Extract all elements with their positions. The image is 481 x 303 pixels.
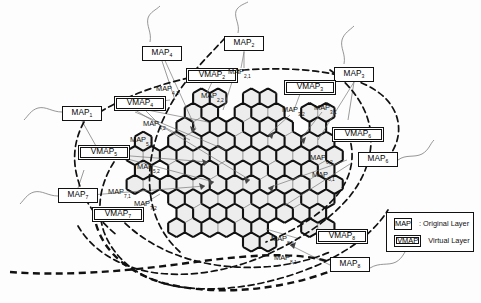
node-map8-subscript: 8 (358, 263, 361, 269)
sublabel-m31: MAP3,1 (314, 104, 337, 114)
node-vmap6-inner-frame: VMAP6 (334, 129, 381, 139)
sublabel-m22-subscript: 2,2 (217, 98, 224, 103)
node-vmap8-label: VMAP8 (329, 232, 356, 240)
node-vmap4-inner-frame: VMAP4 (116, 98, 163, 108)
leader-arrowheads (190, 126, 306, 249)
sublabel-m72: MAP7,2 (134, 200, 157, 210)
node-map7-subscript: 7 (86, 194, 89, 200)
sublabel-m21-subscript: 2,1 (244, 74, 251, 79)
node-vmap3-inner-frame: VMAP3 (286, 82, 333, 92)
sublabel-m71: MAP7,1 (108, 188, 131, 198)
node-vmap6-label: VMAP6 (345, 130, 372, 138)
legend-row-map: MAP : Original Layer (394, 218, 466, 230)
legend-key-vmap-inner: VMAP (396, 237, 419, 245)
node-map4-label: MAP4 (152, 49, 173, 57)
node-map1-label: MAP1 (72, 109, 93, 117)
legend-key-vmap-label: VMAP (397, 236, 418, 245)
legend: MAP : Original Layer VMAP Virtual Layer (386, 212, 474, 252)
node-vmap4[interactable]: VMAP4 (114, 96, 166, 111)
sublabel-m82: MAP8,2 (271, 235, 294, 245)
sublabel-m72-subscript: 7,2 (150, 206, 157, 211)
node-vmap8-inner-frame: VMAP8 (318, 231, 365, 241)
node-map7-label: MAP7 (68, 191, 89, 199)
node-map4-subscript: 4 (170, 52, 173, 58)
sublabel-m81: MAP8,1 (274, 254, 297, 264)
node-vmap6-subscript: 6 (368, 133, 371, 139)
sublabel-m62-subscript: 6,2 (326, 160, 333, 165)
node-vmap4-subscript: 4 (150, 102, 153, 108)
node-map8-label: MAP8 (340, 260, 361, 268)
sublabel-m82-subscript: 8,2 (287, 241, 294, 246)
node-vmap6[interactable]: VMAP6 (332, 127, 384, 142)
sublabel-m52-subscript: 5,2 (153, 169, 160, 174)
sublabel-m81-subscript: 8,1 (290, 260, 297, 265)
sublabel-m62: MAP6,2 (310, 154, 333, 164)
node-map2-label: MAP2 (234, 39, 255, 47)
sublabel-m22: MAP2,2 (201, 92, 224, 102)
legend-key-map-label: MAP (395, 219, 411, 228)
node-vmap2-label: VMAP2 (199, 71, 226, 79)
node-map8[interactable]: MAP8 (330, 257, 370, 272)
node-map7[interactable]: MAP7 (58, 188, 98, 203)
figure-canvas: MAP4MAP2MAP3MAP1MAP6MAP7MAP8VMAP2VMAP3VM… (0, 0, 481, 303)
sublabel-m52: MAP5,2 (137, 163, 160, 173)
node-vmap5-inner-frame: VMAP5 (80, 147, 127, 157)
sublabel-m61: MAP6,1 (312, 171, 335, 181)
legend-key-vmap: VMAP (394, 235, 421, 247)
sublabel-m51-subscript: 5,1 (146, 142, 153, 147)
node-vmap7-subscript: 7 (128, 213, 131, 219)
sublabel-m41: MAP4,1 (156, 85, 179, 95)
node-vmap2-subscript: 2 (222, 74, 225, 80)
legend-key-map: MAP (394, 218, 412, 230)
node-map3-label: MAP3 (344, 70, 365, 78)
node-vmap3-subscript: 3 (320, 86, 323, 92)
sublabel-m32: MAP3,2 (282, 106, 305, 116)
node-vmap3-label: VMAP3 (297, 83, 324, 91)
node-vmap5[interactable]: VMAP5 (78, 145, 130, 160)
node-map2[interactable]: MAP2 (224, 36, 264, 51)
sublabel-m41-subscript: 4,1 (172, 91, 179, 96)
node-map3[interactable]: MAP3 (334, 67, 374, 82)
node-map6-label: MAP6 (368, 155, 389, 163)
sublabel-m31-subscript: 3,1 (330, 110, 337, 115)
legend-row-vmap: VMAP Virtual Layer (394, 235, 466, 247)
legend-label-map: : Original Layer (419, 219, 469, 228)
sublabel-m42-subscript: 4,2 (159, 126, 166, 131)
node-map4[interactable]: MAP4 (142, 46, 182, 61)
node-map2-subscript: 2 (252, 42, 255, 48)
node-vmap3[interactable]: VMAP3 (284, 80, 336, 95)
sublabel-m42: MAP4,2 (143, 120, 166, 130)
sublabel-m21: MAP2,1 (228, 68, 251, 78)
node-map1[interactable]: MAP1 (62, 106, 102, 121)
node-vmap8-subscript: 8 (352, 235, 355, 241)
node-vmap7-inner-frame: VMAP7 (94, 209, 141, 219)
sublabel-m71-subscript: 7,1 (124, 194, 131, 199)
node-map1-subscript: 1 (90, 112, 93, 118)
legend-label-vmap: Virtual Layer (428, 236, 469, 245)
sublabel-m51: MAP5,1 (130, 136, 153, 146)
node-map6[interactable]: MAP6 (358, 152, 398, 167)
node-vmap5-label: VMAP5 (91, 148, 118, 156)
sublabel-m61-subscript: 6,1 (328, 177, 335, 182)
node-vmap7-label: VMAP7 (105, 210, 132, 218)
node-vmap5-subscript: 5 (114, 151, 117, 157)
node-vmap8[interactable]: VMAP8 (316, 229, 368, 244)
node-map3-subscript: 3 (362, 73, 365, 79)
node-map6-subscript: 6 (386, 158, 389, 164)
node-vmap4-label: VMAP4 (127, 99, 154, 107)
sublabel-m32-subscript: 3,2 (298, 112, 305, 117)
